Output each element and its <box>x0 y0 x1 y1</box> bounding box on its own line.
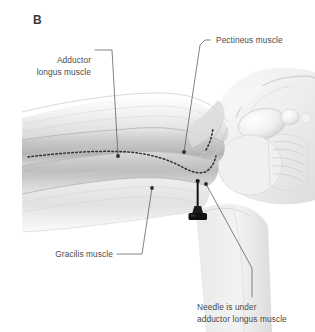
scrotal-nub <box>301 113 311 123</box>
panel-letter: B <box>33 13 42 27</box>
figure-panel-b: B Adductor longus muscle Pectineus muscl… <box>0 0 315 332</box>
needle-shaft <box>197 180 199 210</box>
label-needle-line1: Needle is under <box>197 302 257 312</box>
anatomy-illustration: B Adductor longus muscle Pectineus muscl… <box>0 0 315 332</box>
scrotal-ellipse-small <box>281 109 299 125</box>
leader-dot-adductor-longus <box>116 154 120 158</box>
label-needle-line2: adductor longus muscle <box>197 314 287 324</box>
needle-flange-highlight <box>191 215 196 217</box>
distal-limb-group <box>196 203 272 332</box>
leader-dot-gracilis <box>150 186 154 190</box>
label-adductor-longus-line2: longus muscle <box>37 67 92 77</box>
label-gracilis: Gracilis muscle <box>55 249 113 259</box>
descending-limb <box>196 203 272 332</box>
needle-tip <box>196 179 200 183</box>
label-adductor-longus-line1: Adductor <box>57 55 91 65</box>
leader-dot-needle <box>204 182 208 186</box>
illustration-artwork <box>22 68 315 332</box>
leader-dot-pectineus <box>182 150 186 154</box>
proximal-thigh-mass <box>218 135 282 195</box>
label-pectineus: Pectineus muscle <box>216 35 283 45</box>
